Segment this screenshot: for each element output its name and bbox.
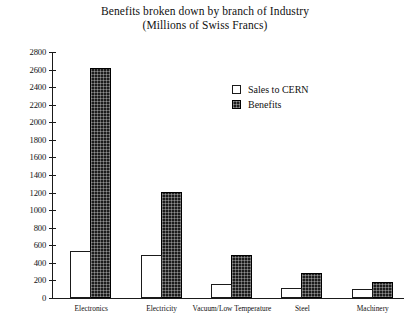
y-axis-tick-label: 2000 xyxy=(12,118,46,127)
y-axis-tick xyxy=(49,298,56,299)
y-axis-tick-label: 600 xyxy=(12,241,46,250)
bar-sales-to-cern xyxy=(281,288,302,298)
chart-title: Benefits broken down by branch of Indust… xyxy=(0,4,410,18)
x-axis-category-label: Machinery xyxy=(313,304,410,313)
y-axis-tick-label: 1600 xyxy=(12,153,46,162)
y-axis-tick-label: 2400 xyxy=(12,83,46,92)
bar-sales-to-cern xyxy=(70,251,91,298)
y-axis-tick xyxy=(49,175,56,176)
y-axis-tick xyxy=(49,87,56,88)
chart-title-block: Benefits broken down by branch of Indust… xyxy=(0,4,410,32)
plot-area: 0200400600800100012001400160018002000220… xyxy=(52,52,404,298)
bar-sales-to-cern xyxy=(352,289,373,298)
y-axis-tick-label: 2800 xyxy=(12,48,46,57)
y-axis-tick xyxy=(49,228,56,229)
x-axis-line xyxy=(52,298,404,299)
bar-sales-to-cern xyxy=(211,284,232,298)
y-axis-tick-label: 2600 xyxy=(12,66,46,75)
y-axis-tick xyxy=(49,122,56,123)
y-axis-tick-label: 800 xyxy=(12,224,46,233)
chart-subtitle: (Millions of Swiss Francs) xyxy=(0,18,410,32)
y-axis-tick xyxy=(49,210,56,211)
y-axis-tick xyxy=(49,140,56,141)
y-axis-tick xyxy=(49,280,56,281)
bar-benefits xyxy=(90,68,111,298)
y-axis-tick xyxy=(49,105,56,106)
y-axis-tick-label: 200 xyxy=(12,276,46,285)
y-axis-tick xyxy=(49,52,56,53)
y-axis-tick-label: 1200 xyxy=(12,189,46,198)
y-axis-tick-label: 2200 xyxy=(12,101,46,110)
y-axis-tick-label: 1400 xyxy=(12,171,46,180)
bar-benefits xyxy=(231,255,252,298)
bar-chart: Benefits broken down by branch of Indust… xyxy=(0,0,410,333)
y-axis-tick xyxy=(49,70,56,71)
y-axis-tick-label: 1000 xyxy=(12,206,46,215)
y-axis-tick-label: 1800 xyxy=(12,136,46,145)
bar-sales-to-cern xyxy=(141,255,162,298)
bar-benefits xyxy=(301,273,322,298)
y-axis-tick xyxy=(49,245,56,246)
y-axis-tick xyxy=(49,157,56,158)
y-axis-tick-label: 0 xyxy=(12,294,46,303)
y-axis-tick-label: 400 xyxy=(12,259,46,268)
y-axis-tick xyxy=(49,193,56,194)
bar-benefits xyxy=(161,192,182,298)
bar-benefits xyxy=(372,282,393,298)
y-axis-tick xyxy=(49,263,56,264)
